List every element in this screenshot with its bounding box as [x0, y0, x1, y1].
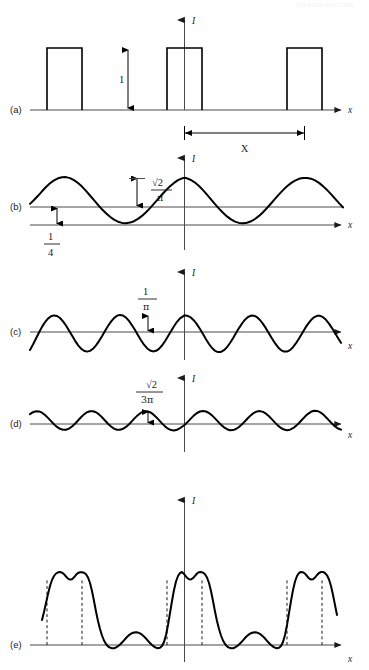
amplitude-denominator-d: 3π	[141, 394, 153, 405]
curve-e	[42, 572, 337, 648]
panel-a-label: (a)	[10, 104, 22, 115]
panel-d-x-label: x	[347, 430, 353, 440]
panel-d-i-label: I	[191, 374, 196, 384]
panel-e-i-label: I	[191, 496, 196, 506]
fourier-series-figure: FOURIER ANALYSIS (a) x I 1 X (b) x I	[0, 0, 369, 670]
period-value: X	[241, 143, 249, 154]
curve-d	[30, 411, 341, 431]
panel-a-i-label: I	[191, 16, 196, 26]
pulse-left	[47, 48, 82, 110]
amplitude-denominator-c: π	[143, 301, 149, 312]
offset-denominator-b: 4	[48, 247, 54, 258]
panel-d: (d) x I √2 3π	[10, 374, 353, 452]
panel-b-i-label: I	[191, 154, 196, 164]
curve-b	[30, 177, 343, 223]
panel-d-label: (d)	[10, 418, 22, 429]
panel-e-x-label: x	[347, 654, 353, 664]
amplitude-value-a: 1	[119, 74, 124, 85]
panel-c: (c) x I 1 π	[10, 268, 353, 360]
panel-a: (a) x I 1 X	[10, 16, 353, 154]
panel-c-label: (c)	[10, 326, 21, 337]
offset-numerator-b: 1	[48, 231, 53, 242]
curve-c	[30, 315, 341, 352]
amplitude-denominator-b: π	[157, 192, 163, 203]
panel-e-label: (e)	[10, 639, 22, 650]
amplitude-numerator-c: 1	[143, 286, 148, 297]
panel-b-label: (b)	[10, 201, 22, 212]
figure-canvas: FOURIER ANALYSIS (a) x I 1 X (b) x I	[0, 0, 369, 670]
panel-c-x-label: x	[347, 341, 353, 351]
panel-b: (b) x I √2 π 1 4	[10, 154, 353, 258]
pulse-right	[287, 48, 322, 110]
panel-c-i-label: I	[191, 268, 196, 278]
amplitude-numerator-b: √2	[152, 177, 163, 188]
page-header-note: FOURIER ANALYSIS	[296, 2, 353, 8]
panel-a-x-label: x	[347, 105, 353, 115]
panel-b-x-label: x	[347, 220, 353, 230]
panel-e: (e) x I	[10, 496, 353, 664]
amplitude-numerator-d: √2	[146, 379, 157, 390]
